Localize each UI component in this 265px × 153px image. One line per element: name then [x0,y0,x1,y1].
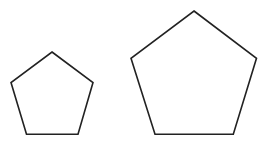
small-pentagon [11,52,93,134]
diagram-canvas [0,0,265,153]
pentagons-figure [0,0,265,153]
large-pentagon [131,11,257,134]
